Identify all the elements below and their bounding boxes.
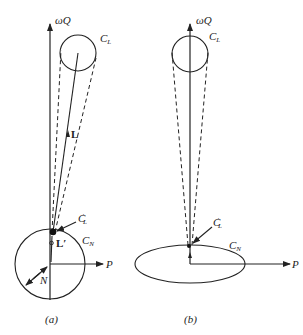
cl-prime-pointer-a <box>57 222 76 231</box>
panel-a: ωQ CL L C′L L′ CN P N (a) <box>15 14 113 326</box>
dashed-cone-right-b <box>192 52 208 245</box>
l-vector <box>53 53 78 232</box>
cn-label-b: CN <box>229 239 241 253</box>
cl-label-a: CL <box>100 32 111 46</box>
small-up-arrow-b <box>188 252 192 258</box>
figure-canvas: ωQ CL L C′L L′ CN P N (a) ωQ CL C′L CN P… <box>0 0 303 335</box>
omega-q-label-b: ωQ <box>196 14 212 26</box>
cl-prime-pointer-b <box>193 227 212 243</box>
n-radius-arrow-back <box>26 273 40 285</box>
panel-b: ωQ CL C′L CN P (b) <box>135 14 299 326</box>
lprime-label: L′ <box>56 237 66 249</box>
p-label-b: P <box>291 258 299 270</box>
cn-label-a: CN <box>82 234 94 248</box>
cl-prime-label-a: C′L <box>78 212 87 226</box>
omega-q-label-a: ωQ <box>55 14 71 26</box>
caption-b: (b) <box>184 313 197 326</box>
cl-prime-point-a <box>50 229 57 236</box>
dashed-cone-right-a <box>55 58 96 232</box>
caption-a: (a) <box>45 313 58 326</box>
n-label: N <box>39 274 48 286</box>
dashed-cone-left-b <box>172 52 188 245</box>
cl-prime-label-b: C′L <box>213 216 222 230</box>
lprime-vector <box>51 236 52 262</box>
p-label-a: P <box>105 258 113 270</box>
cl-label-b: CL <box>209 30 220 44</box>
cl-prime-point-b <box>187 244 191 248</box>
l-vector-label: L <box>71 128 78 140</box>
